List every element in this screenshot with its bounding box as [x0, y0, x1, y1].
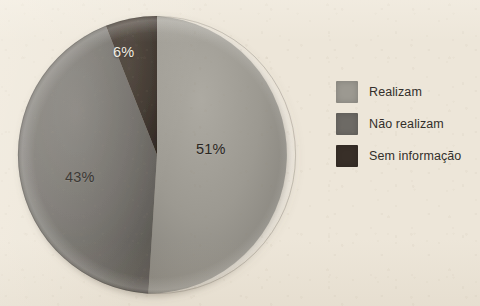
legend-item-sem-informacao[interactable]: Sem informação	[336, 140, 480, 172]
legend-swatch-sem-informacao	[336, 145, 358, 167]
pie-rim-highlight	[18, 16, 296, 294]
pie-label-realizam: 51%	[196, 141, 226, 157]
legend-label-nao-realizam: Não realizam	[369, 117, 444, 131]
pie-label-nao-realizam: 43%	[65, 169, 95, 185]
pie-chart-plot-area: 51% 43% 6%	[0, 0, 318, 306]
legend-swatch-realizam	[336, 81, 358, 103]
legend-label-realizam: Realizam	[369, 85, 422, 99]
legend-item-nao-realizam[interactable]: Não realizam	[336, 108, 480, 140]
pie-chart-figure: 51% 43% 6% Realizam Não realizam Sem inf…	[0, 0, 480, 306]
chart-legend: Realizam Não realizam Sem informação	[336, 76, 480, 172]
legend-swatch-nao-realizam	[336, 113, 358, 135]
legend-label-sem-informacao: Sem informação	[369, 149, 461, 163]
pie-chart-svg	[0, 0, 318, 306]
pie-label-sem-informacao: 6%	[113, 44, 134, 60]
legend-item-realizam[interactable]: Realizam	[336, 76, 480, 108]
